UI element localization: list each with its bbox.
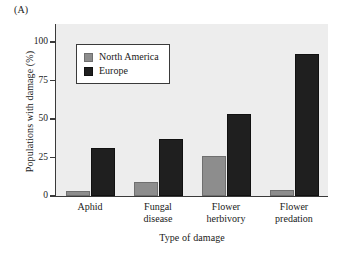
y-tick-label: 50 (39, 114, 49, 124)
figure-panel-a: (A) 0255075100 Populations with damage (… (0, 0, 340, 258)
panel-label: (A) (14, 4, 28, 15)
x-tick-label: Fungal disease (124, 201, 192, 224)
y-axis-title: Populations with damage (%) (24, 27, 35, 197)
y-tick-label: 0 (43, 191, 48, 201)
y-tick-label: 100 (34, 37, 48, 47)
bar-europe (295, 54, 319, 196)
legend-item: North America (84, 50, 159, 64)
legend-label: North America (99, 52, 159, 62)
x-axis-title: Type of damage (56, 232, 328, 243)
bar-north-america (134, 182, 158, 196)
x-tick-label: Flower predation (260, 201, 328, 224)
legend-label: Europe (99, 66, 128, 76)
legend-item: Europe (84, 64, 159, 78)
y-tick-label: 75 (39, 76, 49, 86)
chart-legend: North AmericaEurope (76, 44, 170, 84)
bar-europe (159, 139, 183, 196)
bar-north-america (66, 191, 90, 196)
y-tick-label: 25 (39, 153, 49, 163)
legend-swatch-na (84, 53, 93, 62)
bar-europe (91, 148, 115, 196)
bar-north-america (202, 156, 226, 196)
bar-north-america (270, 190, 294, 196)
x-tick-label: Aphid (56, 201, 124, 213)
x-tick-label: Flower herbivory (192, 201, 260, 224)
bar-europe (227, 114, 251, 196)
legend-swatch-eu (84, 67, 93, 76)
